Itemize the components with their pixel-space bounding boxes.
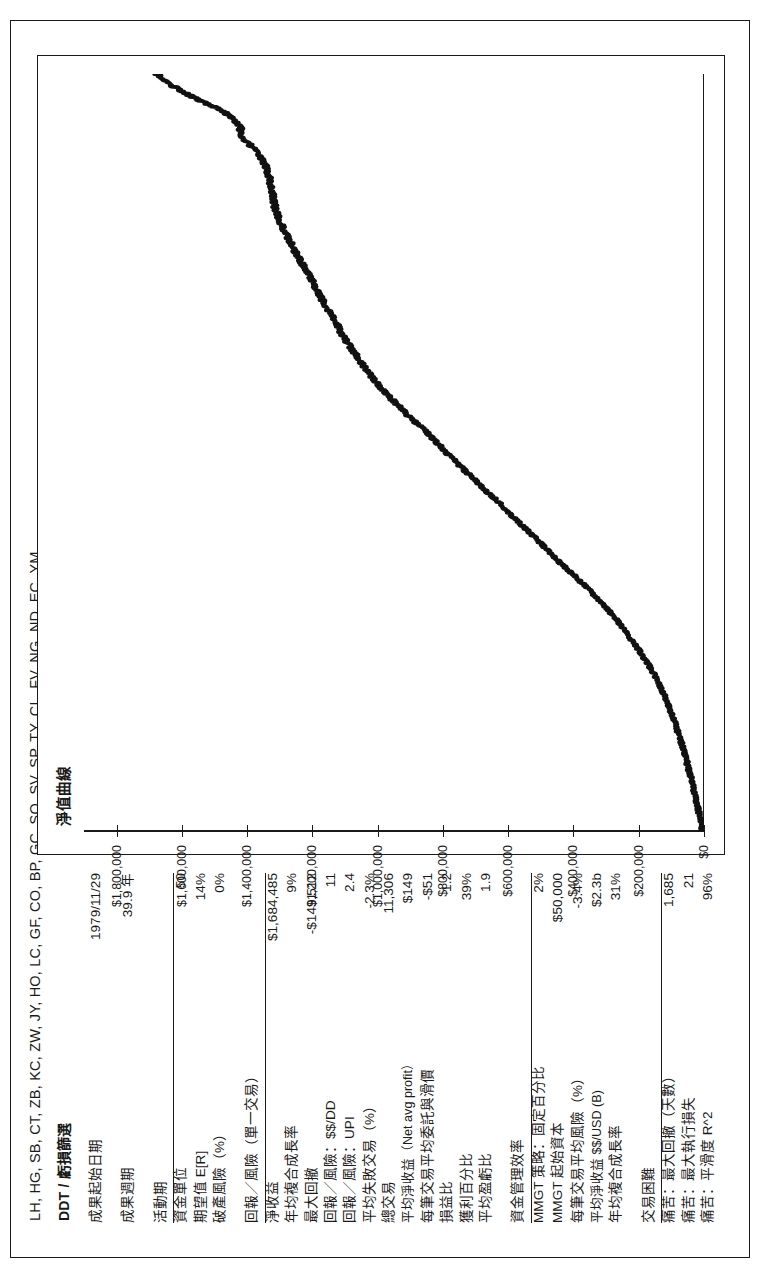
stats-row-label: 年均複合成長率: [609, 1125, 623, 1223]
y-axis-tick-label: $1,200,000: [305, 845, 319, 907]
equity-curve-panel: 淨值曲線 $0$200,000$400,000$600,000$800,000$…: [37, 55, 725, 855]
stats-row: 破產風險（%）0%: [213, 873, 232, 1223]
stats-row-label: MMGT 起始資本: [551, 1122, 565, 1223]
stats-row-value: 39%: [460, 873, 474, 900]
stats-row-label: 年均複合成長率: [285, 1125, 299, 1223]
stats-row: 痛苦：最大執行損失21: [682, 873, 701, 1223]
stats-row-label: 每筆交易平均委託與滑價: [421, 1069, 435, 1223]
stats-section-header: 交易困難: [642, 873, 662, 1223]
statistics-table: 成果起始日期1979/11/29成果週期39.9 年活動期資金單位50期望值 E…: [89, 873, 720, 1223]
report-outer-frame: LH, HG, SB, CT, ZB, KC, ZW, JY, HO, LC, …: [10, 20, 750, 1258]
y-axis-tick-label: $0: [697, 845, 711, 859]
stats-row-value: 11: [324, 873, 338, 887]
stats-row-value: $2.3b: [590, 873, 604, 907]
stats-row-value: 21: [682, 873, 696, 888]
stats-row-value: $1,684,485: [266, 873, 280, 941]
stats-row-label: 資金管理效率: [511, 1139, 526, 1223]
stats-row-value: $50,000: [551, 873, 565, 922]
y-axis-tick-label: $1,800,000: [110, 845, 124, 907]
stats-row-value: 14%: [194, 873, 208, 900]
stats-section-header: 資金管理效率: [511, 873, 531, 1223]
stats-row-value: 1.9: [479, 873, 493, 892]
stats-row-label: 平均淨收益 $$/USD (B): [591, 1090, 604, 1223]
stats-row: MMGT 起始資本$50,000: [551, 873, 570, 1223]
stats-row: 回報／風險：$$/DD11: [324, 873, 343, 1223]
y-axis-tick: [704, 825, 705, 837]
stats-row-label: 損益比: [440, 1181, 454, 1223]
stats-row: 平均淨收益 $$/USD (B)$2.3b: [590, 873, 609, 1223]
stats-row-label: 破產風險（%）: [213, 1127, 227, 1223]
stats-row-label: 平均盈虧比: [479, 1153, 493, 1223]
stats-row: MMGT 策略：固定百分比2%: [532, 873, 551, 1223]
y-axis-tick-label: $200,000: [632, 845, 646, 897]
stats-row-value: 96%: [701, 873, 715, 900]
y-axis-tick-label: $1,000,000: [371, 845, 385, 907]
stats-row: 平均失敗交易（%）-2.3%: [363, 873, 382, 1223]
stats-row-value: 1979/11/29: [89, 873, 103, 940]
stats-row-label: 資金單位: [174, 1167, 188, 1223]
stats-row-value: 9%: [285, 873, 299, 893]
stats-row: 總交易11,306: [382, 873, 401, 1223]
stats-row: 痛苦：最大回撤（天數）1,685: [662, 873, 681, 1223]
stats-row: 痛苦：平滑度 R^296%: [701, 873, 720, 1223]
stats-row: 平均盈虧比1.9: [479, 873, 498, 1223]
stats-row-label: 成果週期: [121, 1167, 135, 1223]
stats-row-value: -$51: [421, 873, 435, 900]
stats-row-label: 平均淨收益（Net avg profit）: [402, 1057, 415, 1223]
stats-row-value: 2%: [532, 873, 546, 893]
stats-row: 資金單位50: [174, 873, 193, 1223]
stats-row-label: 期望值 E[R]: [194, 1151, 208, 1223]
stats-row-value: 1,685: [662, 873, 676, 907]
stats-row-label: 每筆交易平均風險（%）: [571, 1071, 585, 1223]
stats-row-label: 回報／風險：$$/DD: [324, 1100, 338, 1223]
stats-row-value: 2.4: [343, 873, 357, 892]
stats-row: 每筆交易平均風險（%）-3.4%: [571, 873, 590, 1223]
y-axis-tick-label: $1,600,000: [175, 845, 189, 907]
y-axis-tick-label: $800,000: [436, 845, 450, 897]
stats-row-label: 回報／風險：UPI: [343, 1116, 357, 1223]
stats-row: 年均複合成長率31%: [609, 873, 628, 1223]
y-axis-tick-label: $600,000: [501, 845, 515, 897]
stats-section-header: 活動期: [154, 873, 174, 1223]
stats-row: 淨收益$1,684,485: [266, 873, 285, 1223]
strategy-header: DDT / 虧損篩選: [53, 1123, 73, 1221]
stats-row-label: 淨收益: [266, 1181, 280, 1223]
stats-row: 獲利百分比39%: [460, 873, 479, 1223]
stats-row-value: 31%: [609, 873, 623, 900]
y-axis-tick-label: $1,400,000: [240, 845, 254, 907]
stats-spacer: [141, 873, 154, 1223]
report-page: LH, HG, SB, CT, ZB, KC, ZW, JY, HO, LC, …: [0, 0, 760, 1278]
stats-row-value: 0%: [213, 873, 227, 893]
stats-row-label: 交易困難: [642, 1167, 657, 1223]
stats-row-label: 獲利百分比: [460, 1153, 474, 1223]
stats-row-label: 回報／風險（單一交易）: [245, 1069, 260, 1223]
stats-row: 平均淨收益（Net avg profit）$149: [401, 873, 420, 1223]
stats-row: 成果起始日期1979/11/29: [89, 873, 108, 1223]
plot-area: $0$200,000$400,000$600,000$800,000$1,000…: [84, 74, 704, 832]
stats-row: 成果週期39.9 年: [121, 873, 140, 1223]
stats-row: 損益比1.2: [440, 873, 459, 1223]
stats-row-label: 痛苦：最大執行損失: [682, 1097, 696, 1223]
stats-row-label: 最大回撤: [305, 1167, 319, 1223]
stats-row-label: 活動期: [154, 1181, 169, 1223]
stats-row: 每筆交易平均委託與滑價-$51: [421, 873, 440, 1223]
rotated-report-canvas: LH, HG, SB, CT, ZB, KC, ZW, JY, HO, LC, …: [10, 20, 750, 1258]
stats-row: 最大回撤-$149,512: [305, 873, 324, 1223]
equity-curve-line: [84, 74, 704, 831]
chart-title: 淨值曲線: [52, 766, 73, 826]
stats-spacer: [629, 873, 642, 1223]
stats-row-label: MMGT 策略：固定百分比: [532, 1066, 546, 1223]
stats-row-label: 平均失敗交易（%）: [363, 1099, 377, 1223]
stats-section-header: 回報／風險（單一交易）: [245, 873, 265, 1223]
stats-row-label: 痛苦：最大回撤（天數）: [662, 1069, 676, 1223]
stats-row-label: 痛苦：平滑度 R^2: [701, 1111, 715, 1223]
stats-row-label: 總交易: [382, 1181, 396, 1223]
stats-row-label: 成果起始日期: [89, 1139, 103, 1223]
stats-row: 年均複合成長率9%: [285, 873, 304, 1223]
stats-row: 回報／風險：UPI2.4: [343, 873, 362, 1223]
stats-row-value: $149: [401, 873, 415, 903]
y-axis-tick-label: $400,000: [566, 845, 580, 897]
stats-row: 期望值 E[R]14%: [194, 873, 213, 1223]
strategy-value: DDT / 虧損篩選: [56, 1123, 72, 1221]
